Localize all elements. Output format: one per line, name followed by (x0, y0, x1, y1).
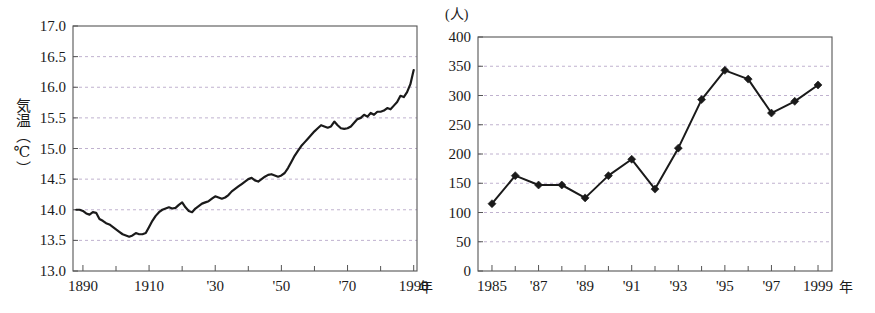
population-x-axis-unit: 年 (839, 281, 853, 295)
y-tick-label: 16.5 (40, 49, 66, 65)
data-point-marker (674, 144, 682, 152)
y-tick-label: 13.5 (40, 232, 66, 248)
x-tick-label: '91 (623, 278, 641, 294)
x-tick-label: 1999 (803, 278, 833, 294)
gridlines-group (478, 66, 832, 242)
x-tick-label: '87 (530, 278, 548, 294)
y-tick-label: 150 (449, 175, 472, 191)
population-chart-canvas: 0501001502002503003504001985'87'89'91'93… (435, 0, 875, 313)
data-point-marker (535, 181, 543, 189)
x-tick-label: 1910 (134, 278, 164, 294)
data-markers-group (488, 66, 822, 207)
temperature-y-axis-title: 気温（℃） (14, 98, 29, 176)
x-tick-label: 1890 (68, 278, 98, 294)
population-chart-figure: 0501001502002503003504001985'87'89'91'93… (435, 0, 875, 313)
y-tick-label: 14.0 (40, 202, 66, 218)
x-tick-label: '97 (763, 278, 781, 294)
gridlines-group (73, 57, 417, 241)
temperature-chart-figure: 13.013.514.014.515.015.516.016.517.01890… (0, 0, 440, 313)
temperature-x-axis-unit: 年 (419, 281, 433, 295)
x-tick-label: 1985 (477, 278, 507, 294)
x-tick-label: '89 (576, 278, 594, 294)
data-line (76, 70, 413, 237)
y-tick-label: 300 (449, 88, 472, 104)
x-tick-label: '95 (716, 278, 734, 294)
x-tick-label: '50 (273, 278, 291, 294)
y-tick-label: 100 (449, 205, 472, 221)
x-tick-label: '93 (669, 278, 687, 294)
y-tick-label: 0 (464, 263, 472, 279)
x-tick-label: '70 (339, 278, 357, 294)
y-tick-label: 15.0 (40, 141, 66, 157)
figure-page: 13.013.514.014.515.015.516.016.517.01890… (0, 0, 875, 313)
temperature-chart-canvas: 13.013.514.014.515.015.516.016.517.01890… (0, 0, 440, 313)
y-tick-label: 50 (456, 234, 471, 250)
data-point-marker (558, 181, 566, 189)
y-axis-ticks-group: 13.013.514.014.515.015.516.016.517.0 (40, 18, 78, 279)
y-tick-label: 14.5 (40, 171, 66, 187)
x-axis-ticks-group: 1985'87'89'91'93'95'971999 (477, 265, 833, 294)
y-tick-label: 13.0 (40, 263, 66, 279)
y-tick-label: 16.0 (40, 79, 66, 95)
y-tick-label: 200 (449, 146, 472, 162)
y-tick-label: 350 (449, 58, 472, 74)
y-tick-label: 17.0 (40, 18, 66, 34)
x-tick-label: '30 (206, 278, 224, 294)
population-y-axis-unit: (人) (445, 8, 468, 22)
y-tick-label: 15.5 (40, 110, 66, 126)
x-axis-ticks-group: 18901910'30'50'701990 (68, 265, 429, 294)
y-tick-label: 250 (449, 117, 472, 133)
y-tick-label: 400 (449, 29, 472, 45)
